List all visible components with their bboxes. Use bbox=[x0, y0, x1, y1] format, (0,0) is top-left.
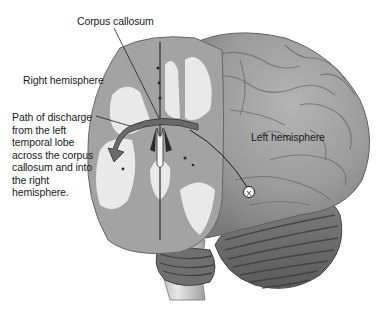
label-path-of-discharge: Path of discharge from the left temporal… bbox=[12, 111, 93, 199]
svg-text:X: X bbox=[246, 189, 252, 198]
brain-diagram: X Corpus callosum Right hemisphere Path … bbox=[0, 0, 382, 317]
label-right-hemisphere: Right hemisphere bbox=[23, 74, 104, 87]
seizure-focus-marker: X bbox=[244, 187, 255, 198]
label-corpus-callosum: Corpus callosum bbox=[77, 15, 154, 28]
label-left-hemisphere: Left hemisphere bbox=[251, 131, 325, 144]
